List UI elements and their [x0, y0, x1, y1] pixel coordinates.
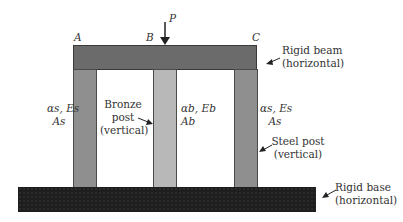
bronze-post-label: Bronze post (vertical)	[100, 98, 146, 137]
left-post-props: αs, Es As	[47, 102, 71, 128]
rigid-beam-label: Rigid beam (horizontal)	[282, 44, 344, 70]
beam-pointer-icon	[266, 58, 280, 65]
right-post-props: αs, Es As	[260, 102, 290, 128]
load-arrow-icon	[160, 22, 170, 45]
bronze-post-props: αb, Eb Ab	[181, 102, 216, 128]
steel-post-label: Steel post (vertical)	[270, 135, 326, 161]
rigid-base-label: Rigid base (horizontal)	[335, 181, 397, 207]
point-b-label: B	[146, 31, 154, 44]
base-pointer-icon	[322, 190, 336, 198]
point-a-label: A	[74, 31, 82, 44]
point-c-label: C	[252, 31, 260, 44]
load-label: P	[169, 12, 176, 25]
